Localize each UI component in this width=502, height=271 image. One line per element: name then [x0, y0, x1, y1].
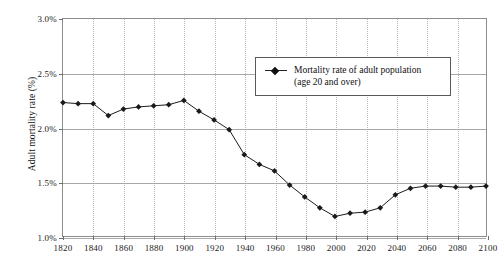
x-tick-mark	[63, 236, 64, 240]
x-tick-mark	[367, 236, 368, 240]
series-line	[63, 100, 486, 216]
x-tick-mark	[306, 236, 307, 240]
data-point-marker	[121, 106, 127, 112]
x-tick-mark	[215, 236, 216, 240]
legend-marker-icon	[265, 67, 287, 74]
x-tick-label: 1860	[114, 243, 133, 253]
plot-area: 3.0%2.5%2.0%1.5%1.0% 1820184018601880190…	[62, 18, 487, 237]
y-tick-label: 3.0%	[37, 14, 57, 24]
x-tick-label: 1840	[84, 243, 103, 253]
y-tick-label: 1.0%	[37, 233, 57, 243]
data-point-marker	[332, 214, 338, 220]
x-tick-label: 1900	[175, 243, 194, 253]
x-tick-label: 2100	[479, 243, 498, 253]
data-point-marker	[136, 104, 142, 110]
x-tick-mark	[488, 236, 489, 240]
x-tick-label: 2060	[418, 243, 437, 253]
gridline-horizontal	[63, 238, 486, 239]
data-point-marker	[211, 117, 217, 123]
data-point-marker	[257, 162, 263, 168]
data-point-marker	[151, 103, 157, 109]
data-point-marker	[438, 183, 444, 189]
mortality-rate-chart: Adult mortality rate (%) 3.0%2.5%2.0%1.5…	[0, 0, 502, 271]
data-point-marker	[423, 183, 429, 189]
data-point-marker	[408, 185, 414, 191]
x-tick-label: 2080	[448, 243, 467, 253]
x-tick-mark	[276, 236, 277, 240]
data-point-marker	[483, 183, 489, 189]
data-series-layer	[63, 19, 486, 236]
x-tick-label: 2000	[327, 243, 346, 253]
data-point-marker	[60, 100, 66, 106]
y-tick-label: 2.5%	[37, 69, 57, 79]
x-tick-label: 2040	[388, 243, 407, 253]
x-tick-label: 1980	[296, 243, 315, 253]
x-tick-label: 1960	[266, 243, 285, 253]
x-tick-mark	[245, 236, 246, 240]
data-point-marker	[226, 127, 232, 133]
data-point-marker	[468, 184, 474, 190]
x-tick-mark	[427, 236, 428, 240]
data-point-marker	[362, 209, 368, 215]
x-tick-mark	[184, 236, 185, 240]
data-point-marker	[453, 184, 459, 190]
x-tick-mark	[124, 236, 125, 240]
x-tick-label: 1820	[54, 243, 73, 253]
legend-label: Mortality rate of adult population (age …	[294, 64, 421, 88]
legend-label-line1: Mortality rate of adult population	[294, 65, 421, 75]
x-tick-mark	[336, 236, 337, 240]
data-point-marker	[166, 102, 172, 108]
x-tick-label: 1940	[236, 243, 255, 253]
x-tick-mark	[154, 236, 155, 240]
y-axis-title: Adult mortality rate (%)	[27, 34, 37, 214]
legend-label-line2: (age 20 and over)	[294, 77, 361, 87]
x-tick-mark	[93, 236, 94, 240]
y-tick-label: 2.0%	[37, 124, 57, 134]
x-tick-label: 1920	[205, 243, 224, 253]
x-tick-label: 1880	[145, 243, 164, 253]
data-point-marker	[75, 101, 81, 107]
x-tick-mark	[397, 236, 398, 240]
y-tick-label: 1.5%	[37, 178, 57, 188]
legend: Mortality rate of adult population (age …	[255, 57, 451, 96]
data-point-marker	[347, 210, 353, 216]
x-tick-mark	[458, 236, 459, 240]
data-point-marker	[241, 152, 247, 158]
x-tick-label: 2020	[357, 243, 376, 253]
